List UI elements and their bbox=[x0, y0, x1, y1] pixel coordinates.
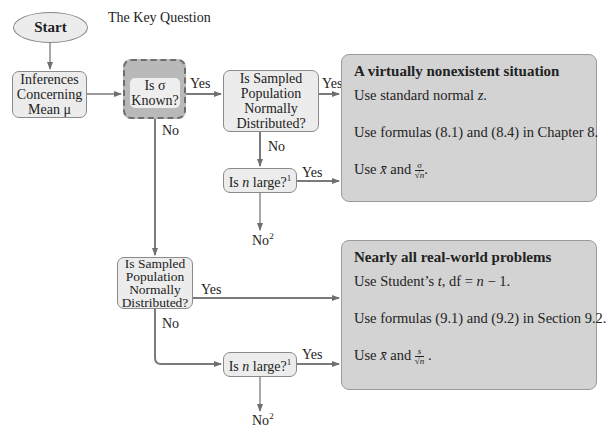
n-large-bottom-yes-label: Yes bbox=[302, 347, 322, 363]
no2-bottom-label: No2 bbox=[252, 411, 274, 429]
result-bottom-line-3: Use x̄ and s√n . bbox=[354, 347, 584, 366]
normal-bottom-line-4: Distributed? bbox=[122, 296, 189, 309]
n-large-top-suffix: large? bbox=[249, 175, 286, 190]
result-bottom-line-1-expr: n bbox=[477, 273, 484, 289]
normal-bottom-decision: Is Sampled Population Normally Distribut… bbox=[117, 257, 193, 309]
normal-top-line-1: Is Sampled bbox=[240, 71, 303, 86]
normal-top-line-2: Population bbox=[241, 86, 302, 101]
no2-top-footnote: 2 bbox=[269, 231, 274, 241]
result-top-line-3-suffix: . bbox=[424, 161, 428, 177]
sigma-yes-label: Yes bbox=[190, 76, 210, 92]
n-large-top-footnote: 1 bbox=[287, 173, 292, 183]
n-large-bottom-prefix: Is bbox=[229, 359, 243, 374]
result-bottom-and: and bbox=[387, 347, 415, 363]
inferences-line-2: Concerning bbox=[17, 87, 82, 102]
result-top-fraction: σ√n bbox=[415, 161, 424, 180]
result-bottom-fraction-den: √n bbox=[415, 357, 424, 366]
result-top-and: and bbox=[387, 161, 415, 177]
result-bottom-fraction: s√n bbox=[415, 347, 424, 366]
normal-bottom-no-label: No bbox=[162, 316, 179, 332]
result-bottom-line-1-suffix: − 1. bbox=[484, 273, 510, 289]
result-bottom-title: Nearly all real-world problems bbox=[354, 249, 584, 266]
result-bottom-line-2: Use formulas (9.1) and (9.2) in Section … bbox=[354, 310, 584, 327]
result-box-unknown-sigma: Nearly all real-world problems Use Stude… bbox=[341, 240, 597, 390]
result-top-line-3: Use x̄ and σ√n. bbox=[354, 161, 584, 180]
result-bottom-line-1-prefix: Use Student’s bbox=[354, 273, 438, 289]
no2-bottom-text: No bbox=[252, 413, 269, 428]
n-large-bottom-decision: Is n large?1 bbox=[223, 352, 297, 377]
result-bottom-line-1: Use Student’s t, df = n − 1. bbox=[354, 273, 584, 290]
result-bottom-line-3-prefix: Use bbox=[354, 347, 380, 363]
n-large-bottom-footnote: 1 bbox=[287, 357, 292, 367]
result-top-title: A virtually nonexistent situation bbox=[354, 63, 584, 80]
normal-top-line-4: Distributed? bbox=[236, 116, 305, 131]
result-top-line-3-prefix: Use bbox=[354, 161, 380, 177]
result-top-line-1-prefix: Use standard normal bbox=[354, 87, 478, 103]
key-question-label: The Key Question bbox=[108, 10, 211, 26]
inferences-line-3: Mean μ bbox=[28, 102, 71, 117]
n-large-top-decision: Is n large?1 bbox=[223, 168, 297, 193]
n-large-top-prefix: Is bbox=[229, 175, 243, 190]
result-top-line-1: Use standard normal z. bbox=[354, 87, 584, 104]
no2-bottom-footnote: 2 bbox=[269, 411, 274, 421]
normal-bottom-yes-label: Yes bbox=[201, 282, 221, 298]
start-label: Start bbox=[34, 19, 67, 36]
result-top-line-2: Use formulas (8.1) and (8.4) in Chapter … bbox=[354, 124, 584, 141]
normal-top-no-label: No bbox=[268, 139, 285, 155]
n-large-bottom-suffix: large? bbox=[249, 359, 286, 374]
start-node: Start bbox=[13, 12, 88, 43]
sigma-known-decision: Is σ Known? bbox=[123, 59, 186, 119]
n-large-bottom-text: Is n large?1 bbox=[229, 355, 292, 374]
result-box-known-sigma: A virtually nonexistent situation Use st… bbox=[341, 54, 597, 202]
sigma-known-line-1: Is σ bbox=[144, 78, 165, 93]
inferences-node: Inferences Concerning Mean μ bbox=[12, 71, 87, 118]
n-large-top-text: Is n large?1 bbox=[229, 171, 292, 190]
normal-top-decision: Is Sampled Population Normally Distribut… bbox=[223, 70, 319, 132]
result-bottom-line-1-mid: , df = bbox=[442, 273, 477, 289]
result-top-fraction-den: √n bbox=[415, 171, 424, 180]
normal-top-yes-label: Yes bbox=[322, 76, 342, 92]
result-bottom-line-3-suffix: . bbox=[424, 347, 431, 363]
no2-top-label: No2 bbox=[252, 231, 274, 249]
sigma-known-line-2: Known? bbox=[131, 93, 178, 108]
no2-top-text: No bbox=[252, 233, 269, 248]
normal-top-line-3: Normally bbox=[244, 101, 298, 116]
n-large-top-yes-label: Yes bbox=[302, 165, 322, 181]
sigma-known-inner: Is σ Known? bbox=[130, 78, 180, 108]
inferences-line-1: Inferences bbox=[20, 72, 78, 87]
sigma-no-label: No bbox=[162, 123, 179, 139]
result-top-line-1-suffix: . bbox=[483, 87, 487, 103]
